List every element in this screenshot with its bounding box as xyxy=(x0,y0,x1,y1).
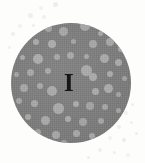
inclusion-spot xyxy=(116,108,121,113)
inclusion-spot xyxy=(14,72,19,77)
inclusion-spot xyxy=(79,118,87,126)
inclusion-spot xyxy=(89,73,97,81)
inclusion-spot xyxy=(45,25,52,32)
inclusion-spot xyxy=(89,40,97,48)
outer-speck xyxy=(135,132,138,135)
inclusion-spot xyxy=(45,68,51,74)
inclusion-spot xyxy=(122,76,127,81)
inclusion-spot xyxy=(115,59,122,66)
outer-speck xyxy=(122,138,126,142)
inclusion-spot xyxy=(53,103,64,114)
inclusion-spot xyxy=(107,71,113,77)
inclusion-spot xyxy=(92,88,99,95)
outer-speck xyxy=(87,156,90,159)
outer-speck xyxy=(126,153,130,157)
inclusion-spot xyxy=(71,39,76,44)
outer-speck xyxy=(32,24,35,27)
outer-speck xyxy=(11,32,15,36)
inclusion-spot xyxy=(33,39,39,45)
figure-panel: I xyxy=(0,0,145,163)
outer-speck xyxy=(124,111,128,115)
inclusion-spot xyxy=(89,133,95,139)
inclusion-spot xyxy=(73,130,80,137)
outer-speck xyxy=(108,136,112,140)
outer-speck xyxy=(98,148,102,152)
inclusion-spot xyxy=(116,92,121,97)
inclusion-spot xyxy=(25,114,31,120)
inclusion-spot xyxy=(33,54,43,64)
outer-speck xyxy=(130,121,133,124)
inclusion-spot xyxy=(20,55,25,60)
outer-speck xyxy=(42,15,46,19)
inclusion-spot xyxy=(37,83,43,89)
outer-speck xyxy=(28,13,33,18)
inclusion-spot xyxy=(41,116,50,125)
outer-speck xyxy=(39,6,43,10)
outer-speck xyxy=(113,151,116,154)
outer-speck xyxy=(53,2,58,7)
inclusion-spot xyxy=(54,54,60,60)
inclusion-spot xyxy=(61,140,67,143)
inclusion-spot xyxy=(118,46,124,52)
inclusion-spot xyxy=(16,98,22,104)
inclusion-spot xyxy=(31,100,38,107)
inclusion-spot xyxy=(35,129,41,135)
outer-speck xyxy=(8,46,11,49)
inclusion-spot xyxy=(102,104,108,110)
outer-speck xyxy=(131,103,134,106)
inclusion-spot xyxy=(106,38,114,46)
inclusion-spot xyxy=(86,102,94,110)
inclusion-spot xyxy=(80,23,90,31)
inclusion-spot xyxy=(52,131,60,139)
inclusion-spot xyxy=(84,54,89,59)
inclusion-spot xyxy=(98,118,104,124)
inclusion-spot xyxy=(98,31,103,36)
inclusion-spot xyxy=(65,116,71,122)
inclusion-spot xyxy=(48,40,56,48)
inclusion-spot xyxy=(47,86,57,96)
inclusion-spot xyxy=(100,54,109,63)
inclusion-spot xyxy=(104,84,113,93)
inclusion-spot xyxy=(59,27,68,36)
outer-speck xyxy=(117,125,121,129)
inclusion-spot xyxy=(20,84,28,92)
inclusion-spot xyxy=(27,69,34,76)
panel-label: I xyxy=(64,70,74,95)
inclusion-spot xyxy=(67,52,74,59)
inclusion-spot xyxy=(73,101,79,107)
outer-speck xyxy=(18,24,22,28)
